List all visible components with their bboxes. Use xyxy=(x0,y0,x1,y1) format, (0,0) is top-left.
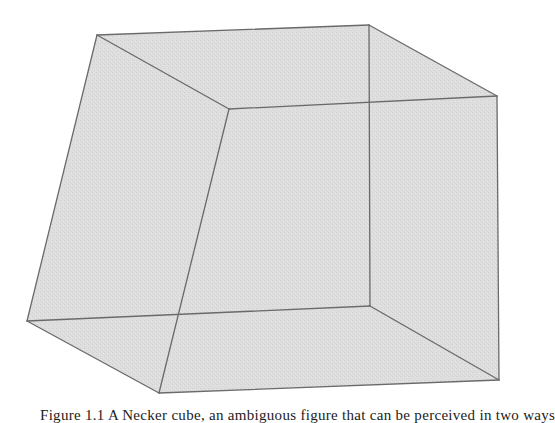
cube-silhouette xyxy=(27,25,499,393)
figure-caption: Figure 1.1 A Necker cube, an ambiguous f… xyxy=(40,407,520,423)
